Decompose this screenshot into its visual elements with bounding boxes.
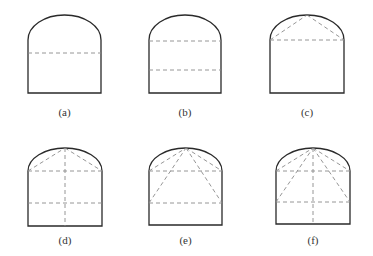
panel-a	[28, 15, 101, 93]
panel-label-b: (b)	[179, 106, 192, 118]
dashed-division-line	[149, 148, 186, 203]
panel-label-c: (c)	[301, 106, 313, 118]
panel-c	[270, 15, 344, 93]
panel-label-d: (d)	[59, 234, 72, 246]
section-outline	[149, 15, 221, 93]
panel-b	[149, 15, 221, 93]
tunnel-section-diagrams	[0, 0, 373, 256]
panel-label-a: (a)	[58, 106, 70, 118]
panel-label-f: (f)	[308, 234, 319, 246]
panel-f	[276, 148, 350, 224]
dashed-division-line	[186, 148, 222, 203]
dashed-division-line	[276, 148, 313, 202]
section-outline	[28, 15, 101, 93]
section-outline	[270, 15, 344, 93]
panel-d	[28, 148, 102, 226]
panel-e	[149, 148, 222, 225]
dashed-division-line	[313, 148, 350, 202]
panel-label-e: (e)	[179, 234, 191, 246]
